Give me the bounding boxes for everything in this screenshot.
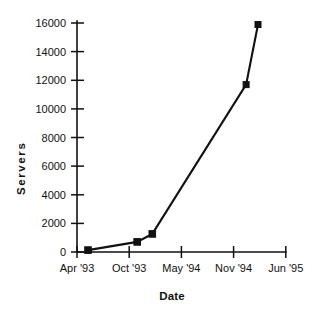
data-point-5 bbox=[255, 22, 261, 28]
y-tick-label-16000: 16000 bbox=[35, 17, 66, 29]
y-tick-label-8000: 8000 bbox=[42, 132, 66, 144]
y-tick-label-2000: 2000 bbox=[42, 217, 66, 229]
x-tick-label-oct-93: Oct '93 bbox=[112, 262, 147, 274]
x-tick-label-apr-93: Apr '93 bbox=[60, 262, 95, 274]
y-tick-label-10000: 10000 bbox=[35, 103, 66, 115]
data-point-3 bbox=[149, 231, 156, 238]
x-tick-label-nov-94: Nov '94 bbox=[215, 262, 252, 274]
y-tick-label-6000: 6000 bbox=[42, 160, 66, 172]
data-point-1 bbox=[85, 247, 92, 254]
x-tick-label-may-94: May '94 bbox=[162, 262, 200, 274]
y-axis-title: Servers bbox=[15, 142, 27, 195]
y-tick-label-12000: 12000 bbox=[35, 74, 66, 86]
data-point-2 bbox=[134, 239, 141, 246]
y-tick-label-4000: 4000 bbox=[42, 189, 66, 201]
servers-over-time-line-chart: 0 2000 4000 6000 8000 10000 12000 14000 … bbox=[0, 0, 317, 317]
x-axis-title: Date bbox=[159, 290, 185, 302]
y-tick-label-0: 0 bbox=[60, 246, 66, 258]
x-tick-label-jun-95: Jun '95 bbox=[268, 262, 303, 274]
chart-container: 0 2000 4000 6000 8000 10000 12000 14000 … bbox=[0, 0, 317, 317]
y-tick-label-14000: 14000 bbox=[35, 46, 66, 58]
data-point-4 bbox=[243, 82, 249, 88]
